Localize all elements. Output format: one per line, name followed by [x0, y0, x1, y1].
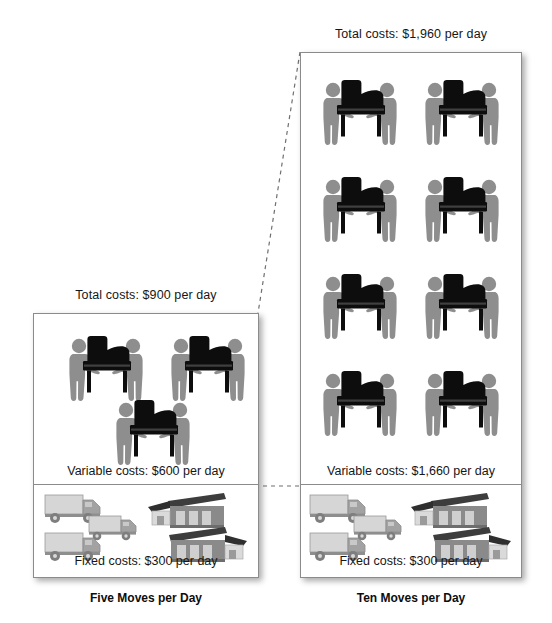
panel-connector-horizontal	[255, 478, 305, 490]
fixed-cost-zone-left: Fixed costs: $300 per day	[34, 485, 258, 578]
delivery-truck-icon	[353, 513, 408, 543]
piano-mover-icon	[419, 272, 505, 348]
fixed-cost-zone-right: Fixed costs: $300 per day	[301, 485, 521, 577]
piano-mover-icon	[317, 272, 403, 348]
total-cost-label-right: Total costs: $1,960 per day	[300, 27, 522, 41]
variable-cost-label-left: Variable costs: $600 per day	[34, 464, 258, 478]
piano-mover-icon	[419, 175, 505, 251]
panel-five-moves-per-day[interactable]: Variable costs: $600 per day	[33, 313, 259, 578]
total-cost-label-left: Total costs: $900 per day	[33, 288, 259, 302]
fixed-cost-label-left: Fixed costs: $300 per day	[34, 554, 258, 568]
panel-title-five-moves: Five Moves per Day	[33, 591, 259, 605]
piano-mover-icon	[419, 78, 505, 154]
piano-mover-icon	[110, 398, 196, 474]
fixed-cost-label-right: Fixed costs: $300 per day	[301, 554, 521, 568]
variable-cost-zone-left: Variable costs: $600 per day	[34, 314, 258, 484]
piano-mover-icon	[317, 78, 403, 154]
variable-cost-zone-right: Variable costs: $1,660 per day	[301, 53, 521, 484]
piano-mover-icon	[317, 175, 403, 251]
piano-mover-icon	[317, 369, 403, 445]
delivery-truck-icon	[88, 513, 143, 543]
piano-mover-icon	[419, 369, 505, 445]
variable-cost-label-right: Variable costs: $1,660 per day	[301, 464, 521, 478]
diagram-canvas: Total costs: $900 per day Total costs: $…	[0, 0, 552, 623]
panel-title-ten-moves: Ten Moves per Day	[300, 591, 522, 605]
panel-ten-moves-per-day[interactable]: Variable costs: $1,660 per day	[300, 52, 522, 578]
